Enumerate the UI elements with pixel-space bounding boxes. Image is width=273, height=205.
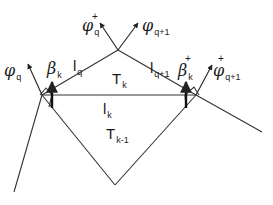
phi-q-plus-arrow <box>100 23 118 50</box>
phi-q1-plus-arrow <box>196 65 212 95</box>
label-t-k1: Tk-1 <box>106 126 129 145</box>
label-phi-q1: φq+1 <box>142 18 169 37</box>
edge-left-tail <box>14 95 42 192</box>
phi-q-arrow <box>28 64 42 95</box>
triangulation-diagram <box>0 0 273 205</box>
label-phi-q-plus: + φq <box>82 18 99 37</box>
phi-q1-arrow <box>118 23 138 50</box>
label-phi-q1-plus: + φq+1 <box>213 63 240 82</box>
label-beta-k: βk <box>47 61 62 80</box>
label-t-k: Tk <box>112 71 127 90</box>
edge-right-tail <box>196 95 262 132</box>
label-l-k: lk <box>103 101 112 120</box>
label-beta-k-plus: + βk <box>178 63 193 82</box>
label-phi-q: φq <box>4 63 21 82</box>
label-l-q: lq <box>73 58 82 77</box>
label-l-q1: lq+1 <box>150 60 170 79</box>
